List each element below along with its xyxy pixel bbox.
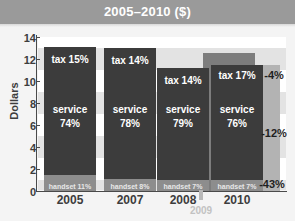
bar-2007-service-value: 78% [104, 118, 156, 130]
y-tick-mark [36, 125, 40, 126]
bar-2008-service-label: service [157, 104, 209, 116]
bar-2005-service-label: service [44, 104, 96, 116]
y-tick-mark [36, 147, 40, 148]
y-tick-mark [36, 81, 40, 82]
bar-2008-tax-label: tax 14% [157, 75, 209, 86]
y-tick-label: 2 [16, 165, 36, 175]
x-tick-ghost-label-2009: 2009 [174, 205, 228, 216]
chart-container: 2005–2010 ($) 14 12 10 8 6 4 2 0 Dollars [0, 0, 295, 221]
bar-2005[interactable]: tax 15% service 74% handset 11% [44, 47, 96, 191]
y-axis-title: Dollars [8, 66, 20, 136]
bar-2007[interactable]: tax 14% service 78% handset 8% [104, 48, 156, 191]
y-tick-mark [36, 59, 40, 60]
bar-2005-tax-label: tax 15% [44, 54, 96, 65]
x-tick-label-2005: 2005 [43, 193, 97, 207]
banner-shadow [0, 24, 295, 27]
y-tick-mark [36, 191, 40, 192]
bar-2008-service-value: 79% [157, 118, 209, 130]
x-tick-ghost-mark-2009 [199, 190, 203, 200]
bar-2007-handset-label: handset 8% [104, 183, 156, 190]
y-tick-mark [36, 103, 40, 104]
bar-2007-service-label: service [104, 104, 156, 116]
bar-2007-tax-label: tax 14% [104, 55, 156, 66]
bar-2010-service-label: service [211, 104, 263, 116]
annotation-minus-12: -12% [252, 127, 295, 139]
y-tick-label: 12 [16, 55, 36, 65]
bar-2008[interactable]: tax 14% service 79% handset 7% [157, 68, 209, 191]
annotation-minus-4: -4% [252, 69, 295, 81]
annotation-minus-43: -43% [250, 178, 294, 190]
y-tick-label: 4 [16, 143, 36, 153]
page-title: 2005–2010 ($) [0, 3, 295, 20]
x-axis-line [36, 191, 287, 192]
bar-2005-service-value: 74% [44, 118, 96, 130]
y-tick-label: 14 [16, 33, 36, 43]
bar-2005-handset-label: handset 11% [44, 183, 96, 190]
y-tick-mark [36, 37, 40, 38]
bar-2008-handset-label: handset 7% [157, 183, 209, 190]
x-tick-label-2007: 2007 [103, 193, 157, 207]
y-tick-mark [36, 169, 40, 170]
y-tick-label: 0 [16, 187, 36, 197]
